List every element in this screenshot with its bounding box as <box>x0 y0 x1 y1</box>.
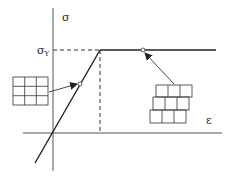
elastic-point-marker <box>78 82 82 86</box>
epsilon-axis-label: ε <box>206 114 212 127</box>
stress-strain-diagram: σ σY ε <box>0 0 231 177</box>
brick-inset-icon <box>150 85 192 123</box>
yield-subscript: Y <box>44 50 50 58</box>
elastic-line <box>35 50 100 163</box>
yield-stress-label: σY <box>37 44 50 58</box>
lattice-inset-icon <box>13 77 48 105</box>
brick-arrow <box>145 53 174 84</box>
plastic-point-marker <box>141 48 145 52</box>
sigma-axis-label: σ <box>62 11 70 24</box>
